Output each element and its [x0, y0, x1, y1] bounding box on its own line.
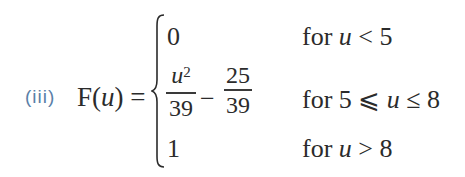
fraction-u-squared-over-39: u2 39	[166, 62, 196, 121]
numerator: 25	[224, 62, 252, 88]
condition-text: > 8	[352, 134, 393, 163]
denominator: 39	[224, 92, 252, 118]
function-lhs: F(u) =	[77, 82, 146, 113]
fraction-bar	[166, 92, 196, 94]
case-1-condition: for u < 5	[302, 22, 393, 52]
case-3-expression: 1	[167, 134, 180, 164]
close-paren: )	[115, 82, 124, 112]
numerator: u2	[166, 62, 196, 91]
condition-text: for	[302, 134, 339, 163]
part-label: (iii)	[25, 86, 55, 108]
function-name: F	[77, 82, 92, 112]
denominator: 39	[166, 95, 196, 121]
case-2-condition: for 5 ⩽ u ≤ 8	[302, 84, 440, 115]
exponent: 2	[183, 64, 191, 80]
condition-variable: u	[339, 22, 352, 51]
condition-text: for 5 ⩽	[302, 85, 387, 114]
condition-text: < 5	[352, 22, 393, 51]
case-3-condition: for u > 8	[302, 134, 393, 164]
equals-sign: =	[130, 82, 145, 112]
function-variable: u	[101, 82, 115, 112]
condition-variable: u	[387, 85, 400, 114]
condition-text: ≤ 8	[400, 85, 440, 114]
fraction-25-over-39: 25 39	[224, 62, 252, 118]
case-1-expression: 0	[167, 22, 180, 52]
left-brace-icon	[151, 14, 167, 168]
condition-text: for	[302, 22, 339, 51]
numerator-variable: u	[171, 62, 183, 88]
condition-variable: u	[339, 134, 352, 163]
minus-operator: −	[200, 84, 215, 114]
fraction-bar	[224, 89, 252, 91]
open-paren: (	[92, 82, 101, 112]
